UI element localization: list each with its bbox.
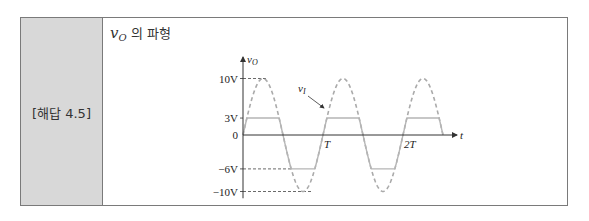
waveform-chart: 10V3V0−6V−10VT2TvOtvI: [0, 0, 589, 221]
y-tick-label: −10V: [213, 186, 238, 198]
vi-annotation-sub: I: [302, 87, 306, 96]
y-axis-label-sub: O: [252, 58, 258, 67]
y-tick-label: 3V: [225, 112, 239, 124]
y-tick-label: 10V: [219, 73, 238, 85]
y-tick-label: −6V: [218, 163, 238, 175]
x-tick-label: T: [324, 138, 331, 150]
y-axis-label: vO: [247, 53, 258, 67]
vi-annotation-label: vI: [298, 82, 306, 96]
vi-annotation-arrow: [308, 96, 324, 108]
x-axis-label: t: [460, 129, 464, 141]
y-tick-label: 0: [233, 129, 239, 141]
x-tick-label: 2T: [404, 138, 417, 150]
